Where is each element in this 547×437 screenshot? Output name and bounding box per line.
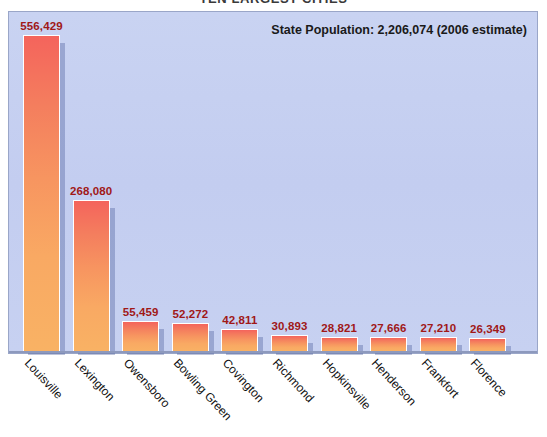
bar-rect: [221, 329, 258, 353]
category-label-lexington: Lexington: [71, 356, 117, 404]
bar-value-label: 268,080: [70, 185, 112, 197]
bar-value-label: 30,893: [272, 320, 308, 332]
category-label-owensboro: Owensboro: [121, 356, 173, 410]
category-label-covington: Covington: [220, 356, 267, 405]
x-axis-category-labels: LouisvilleLexingtonOwensboroBowling Gree…: [8, 356, 538, 436]
bar-value-label: 27,666: [371, 322, 407, 334]
bar-series: 556,429268,08055,45952,27242,81130,89328…: [9, 12, 537, 353]
bar-value-label: 52,272: [172, 308, 208, 320]
bar-value-label: 556,429: [20, 20, 62, 32]
bar-rect: [172, 323, 209, 353]
bar-value-label: 55,459: [123, 306, 159, 318]
axis-baseline: [9, 351, 537, 353]
chart-title: TEN LARGEST CITIES: [0, 0, 547, 6]
bar-rect: [122, 321, 159, 353]
category-label-hopkinsville: Hopkinsville: [319, 356, 373, 412]
bar-rect: [23, 35, 60, 353]
category-label-louisville: Louisville: [22, 356, 66, 402]
bar-value-label: 26,349: [470, 323, 506, 335]
bar-value-label: 28,821: [321, 322, 357, 334]
category-label-florence: Florence: [468, 356, 510, 400]
category-label-richmond: Richmond: [270, 356, 317, 405]
category-label-frankfort: Frankfort: [419, 356, 462, 401]
bar-value-label: 42,811: [222, 314, 257, 326]
bar-value-label: 27,210: [420, 322, 456, 334]
category-label-henderson: Henderson: [369, 356, 419, 408]
bar-rect: [73, 200, 110, 353]
chart-plot-area: State Population: 2,206,074 (2006 estima…: [8, 11, 538, 354]
